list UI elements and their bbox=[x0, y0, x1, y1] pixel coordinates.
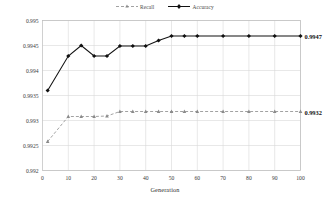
x-axis-tick-label: 50 bbox=[169, 175, 175, 181]
line-chart: Recall Accuracy Generation 0.9920.99250.… bbox=[0, 0, 330, 202]
x-axis-tick-label: 60 bbox=[195, 175, 201, 181]
end-value-label-recall: 0.9932 bbox=[305, 108, 322, 115]
y-axis-tick-label: 0.993 bbox=[2, 118, 39, 124]
series-line-recall bbox=[48, 112, 301, 142]
data-point-accuracy bbox=[144, 44, 148, 48]
data-point-accuracy bbox=[298, 34, 302, 38]
plot-area bbox=[0, 0, 330, 202]
y-axis-tick-label: 0.994 bbox=[2, 68, 39, 74]
data-point-accuracy bbox=[169, 34, 173, 38]
data-point-accuracy bbox=[195, 34, 199, 38]
series-line-accuracy bbox=[48, 36, 301, 91]
x-axis-tick-label: 40 bbox=[143, 175, 149, 181]
data-point-accuracy bbox=[221, 34, 225, 38]
x-axis-tick-label: 100 bbox=[296, 175, 304, 181]
x-axis-tick-label: 20 bbox=[91, 175, 97, 181]
end-value-label-accuracy: 0.9947 bbox=[305, 33, 322, 40]
x-axis-tick-label: 80 bbox=[246, 175, 252, 181]
y-axis-tick-label: 0.9925 bbox=[2, 143, 39, 149]
y-axis-tick-label: 0.995 bbox=[2, 18, 39, 24]
data-point-recall bbox=[67, 115, 71, 118]
x-axis-title: Generation bbox=[0, 186, 330, 193]
data-point-accuracy bbox=[247, 34, 251, 38]
x-axis-tick-label: 30 bbox=[117, 175, 123, 181]
y-axis-tick-label: 0.9935 bbox=[2, 93, 39, 99]
data-point-accuracy bbox=[157, 38, 161, 42]
data-point-accuracy bbox=[273, 34, 277, 38]
data-point-accuracy bbox=[182, 34, 186, 38]
x-axis-tick-label: 90 bbox=[272, 175, 278, 181]
x-axis-tick-label: 0 bbox=[41, 175, 44, 181]
data-point-recall bbox=[299, 110, 303, 113]
y-axis-tick-label: 0.9945 bbox=[2, 43, 39, 49]
y-axis-tick-label: 0.992 bbox=[2, 168, 39, 174]
data-point-accuracy bbox=[131, 44, 135, 48]
x-axis-tick-label: 70 bbox=[220, 175, 226, 181]
plot-svg bbox=[0, 0, 330, 202]
x-axis-tick-label: 10 bbox=[66, 175, 72, 181]
